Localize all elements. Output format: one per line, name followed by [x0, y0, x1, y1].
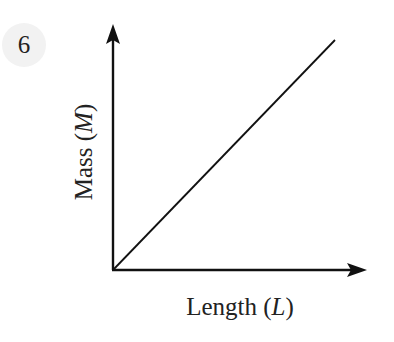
x-axis-label: Length (L)	[186, 293, 294, 321]
x-axis-symbol: L	[272, 293, 286, 320]
data-line	[113, 40, 335, 270]
mass-length-graph	[0, 0, 394, 342]
y-axis-symbol: M	[70, 112, 97, 133]
y-axis-label: Mass (M)	[70, 104, 98, 201]
